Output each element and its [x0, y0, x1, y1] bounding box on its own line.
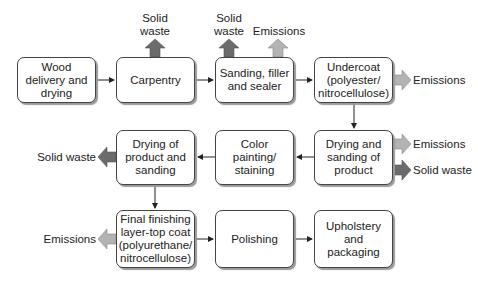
output-label-final-finishing-emissions: Emissions — [36, 233, 96, 246]
output-label-drying-emissions: Emissions — [413, 138, 473, 151]
output-label-drying-solid-waste: Solid waste — [413, 164, 477, 177]
solid-waste-arrow-icon — [145, 39, 165, 57]
step-drying-sanding-product: Drying and sanding of product — [314, 130, 393, 185]
step-carpentry: Carpentry — [116, 57, 195, 103]
step-sanding-filler-sealer: Sanding, filler and sealer — [215, 57, 294, 103]
step-polishing: Polishing — [215, 210, 294, 268]
step-undercoat: Undercoat (polyester/ nitrocellulose) — [314, 57, 393, 103]
step-wood-delivery: Wood delivery and drying — [17, 57, 96, 103]
step-final-finishing: Final finishing layer-top coat (polyuret… — [116, 210, 195, 268]
step-upholstery-packaging: Upholstery and packaging — [314, 210, 393, 268]
step-drying-product-sanding: Drying of product and sanding — [116, 130, 195, 185]
output-label-undercoat-emissions: Emissions — [413, 74, 473, 87]
emissions-arrow-icon — [98, 229, 116, 249]
emissions-arrow-icon — [393, 70, 411, 90]
output-label-carpentry-solid-waste: Solid waste — [138, 12, 172, 38]
output-label-sanding-emissions: Emissions — [252, 25, 306, 38]
output-label-drying-product-solid-waste: Solid waste — [30, 151, 96, 164]
solid-waste-arrow-icon — [98, 147, 116, 167]
emissions-arrow-icon — [393, 134, 411, 154]
solid-waste-arrow-icon — [393, 160, 411, 180]
output-label-sanding-solid-waste: Solid waste — [212, 12, 246, 38]
solid-waste-arrow-icon — [219, 39, 239, 57]
step-color-painting: Color painting/ staining — [215, 130, 294, 185]
emissions-arrow-icon — [268, 39, 288, 57]
